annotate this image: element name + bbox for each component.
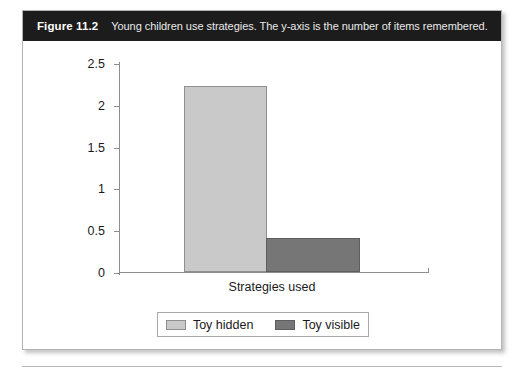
- bar-toy-hidden: [184, 86, 267, 272]
- figure-number-label: Figure 11.2: [37, 20, 98, 32]
- chart-plot-area: 2.5 2 1.5 1 0.5 0 Strategies used: [23, 41, 501, 349]
- page-divider-rule: [22, 366, 502, 367]
- bar-toy-visible: [266, 238, 360, 272]
- chart-axes: 2.5 2 1.5 1 0.5 0 Strategies used: [119, 64, 429, 273]
- legend-swatch-toy-hidden: [166, 320, 186, 330]
- y-axis-tick-label-1: 1: [98, 182, 105, 196]
- y-axis-line: [119, 62, 120, 275]
- y-axis-tick-label-0.5: 0.5: [88, 224, 105, 238]
- legend-label-toy-hidden: Toy hidden: [193, 318, 253, 332]
- figure-caption-bar: Figure 11.2 Young children use strategie…: [23, 11, 501, 41]
- legend-item-toy-hidden: Toy hidden: [166, 318, 253, 332]
- y-axis-tick-label-2: 2: [98, 99, 105, 113]
- y-axis-tick-0.5: 0.5: [114, 231, 119, 232]
- y-axis-tick-2.5: 2.5: [114, 64, 119, 65]
- legend-item-toy-visible: Toy visible: [275, 318, 360, 332]
- x-axis-category-label: Strategies used: [184, 280, 360, 294]
- figure-container: Figure 11.2 Young children use strategie…: [22, 10, 502, 350]
- x-axis-end-tick: [428, 268, 429, 273]
- legend-swatch-toy-visible: [275, 320, 295, 330]
- y-axis-tick-0: 0: [114, 273, 119, 274]
- chart-legend: Toy hidden Toy visible: [157, 312, 369, 337]
- figure-caption-text: Young children use strategies. The y-axi…: [111, 20, 488, 32]
- y-axis-tick-label-1.5: 1.5: [88, 141, 105, 155]
- y-axis-tick-1: 1: [114, 189, 119, 190]
- x-axis-line: [119, 272, 429, 273]
- y-axis-tick-label-0: 0: [98, 266, 105, 280]
- x-axis-start-tick: [119, 268, 120, 273]
- y-axis-tick-2: 2: [114, 106, 119, 107]
- legend-label-toy-visible: Toy visible: [302, 318, 360, 332]
- y-axis-tick-1.5: 1.5: [114, 148, 119, 149]
- y-axis-tick-label-2.5: 2.5: [88, 57, 105, 71]
